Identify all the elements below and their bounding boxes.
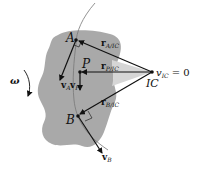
instantaneous-center-diagram: A P B IC rA/IC rP/IC rB/IC vA vP vB vIC … bbox=[0, 0, 198, 173]
label-a: A bbox=[65, 31, 75, 45]
point-ic-dot bbox=[150, 70, 154, 74]
diagram-svg: A P B IC rA/IC rP/IC rB/IC vA vP vB vIC … bbox=[0, 0, 198, 173]
label-omega: ω bbox=[10, 75, 20, 86]
point-a-dot bbox=[74, 38, 78, 42]
point-b-dot bbox=[76, 114, 80, 118]
label-ic: IC bbox=[145, 77, 159, 90]
label-b: B bbox=[65, 113, 75, 127]
label-v-b: vB bbox=[101, 152, 112, 163]
ic-velocity-equation: vIC = 0 bbox=[156, 67, 190, 79]
label-p: P bbox=[81, 57, 91, 71]
rotation-arrow-icon bbox=[24, 70, 30, 96]
